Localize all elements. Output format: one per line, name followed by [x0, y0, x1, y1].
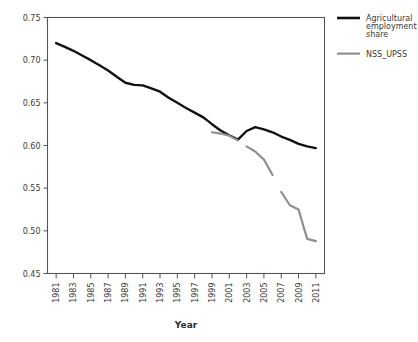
x-tick-label: 1989 — [121, 283, 130, 303]
chart-figure: 0.750.700.650.600.550.500.45 19811983198… — [0, 0, 418, 342]
y-tick-label: 0.70 — [23, 56, 41, 65]
legend-label: NSS_UPSS — [366, 50, 407, 59]
y-tick-label: 0.65 — [23, 99, 41, 108]
y-tick-label: 0.55 — [23, 184, 41, 193]
x-tick-label: 2005 — [260, 283, 269, 303]
x-tick-label: 1981 — [52, 283, 61, 303]
y-tick-label: 0.75 — [23, 14, 41, 23]
x-tick-label: 1983 — [69, 283, 78, 303]
y-tick-label: 0.45 — [23, 270, 41, 279]
x-tick-label: 1997 — [191, 283, 200, 303]
x-tick-label: 1985 — [87, 283, 96, 303]
x-axis-title: Year — [174, 320, 198, 330]
line-chart: 0.750.700.650.600.550.500.45 19811983198… — [0, 0, 418, 342]
x-tick-label: 1995 — [173, 283, 182, 303]
y-tick-label: 0.60 — [23, 142, 41, 151]
legend-label: share — [366, 30, 388, 39]
x-tick-label: 2003 — [243, 283, 252, 303]
x-tick-label: 2001 — [225, 283, 234, 303]
x-tick-label: 2007 — [277, 283, 286, 303]
x-tick-label: 1999 — [208, 283, 217, 303]
x-tick-label: 2009 — [295, 283, 304, 303]
y-tick-label: 0.50 — [23, 227, 41, 236]
x-tick-label: 1991 — [139, 283, 148, 303]
x-tick-label: 2011 — [312, 283, 321, 303]
x-tick-label: 1993 — [156, 283, 165, 303]
x-tick-label: 1987 — [104, 283, 113, 303]
